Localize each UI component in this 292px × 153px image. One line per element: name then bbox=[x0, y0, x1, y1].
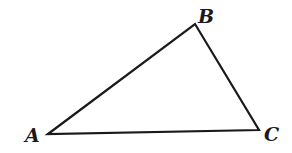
vertex-label-c: C bbox=[264, 125, 279, 144]
vertex-label-b: B bbox=[198, 7, 214, 26]
vertex-label-a: A bbox=[25, 126, 40, 145]
triangle-abc bbox=[48, 24, 259, 134]
triangle-diagram bbox=[0, 0, 292, 153]
